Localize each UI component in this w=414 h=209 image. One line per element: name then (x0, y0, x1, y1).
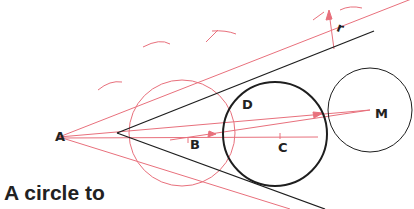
arrow-b (208, 131, 216, 137)
arc-mark-4 (98, 82, 122, 90)
angle-arm-upper (117, 31, 374, 133)
angle-arm-lower (117, 133, 325, 209)
construction-diagram (0, 0, 414, 209)
construction-lines (59, 0, 414, 209)
caption-text: A circle to (4, 181, 105, 205)
parallel-line-upper (59, 0, 414, 137)
arc-mark-1 (143, 42, 170, 47)
arc-mark-3 (313, 7, 362, 20)
label-m: M (375, 106, 388, 121)
r-arrow-head (326, 10, 332, 20)
arc-mark-2 (206, 30, 236, 42)
label-a: A (55, 129, 65, 144)
label-c: C (278, 140, 288, 155)
label-b: B (190, 137, 200, 152)
label-d: D (242, 97, 253, 112)
circle-c (223, 82, 327, 186)
